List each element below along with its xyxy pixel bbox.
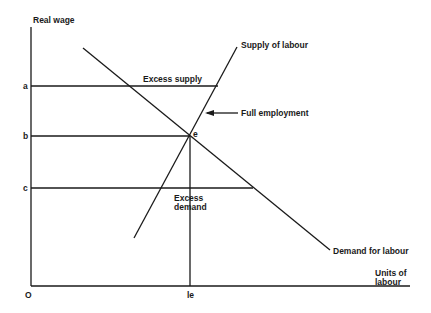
- labour-market-diagram: [0, 0, 431, 313]
- full-employment-label: Full employment: [241, 108, 309, 118]
- equilibrium-point-label: e: [193, 129, 198, 139]
- supply-curve-label: Supply of labour: [241, 40, 308, 50]
- demand-curve-label: Demand for labour: [333, 246, 409, 256]
- y-axis-label: Real wage: [33, 15, 75, 25]
- wage-label-b: b: [23, 131, 28, 141]
- excess-supply-label: Excess supply: [143, 74, 202, 84]
- x-axis-label-2: labour: [375, 277, 401, 287]
- arrow-head-icon: [205, 110, 214, 116]
- demand-curve: [83, 48, 330, 250]
- wage-label-c: c: [23, 183, 28, 193]
- wage-label-a: a: [23, 81, 28, 91]
- excess-demand-label-2: demand: [174, 202, 207, 212]
- origin-label: O: [25, 290, 32, 300]
- equilibrium-quantity-label: le: [187, 290, 194, 300]
